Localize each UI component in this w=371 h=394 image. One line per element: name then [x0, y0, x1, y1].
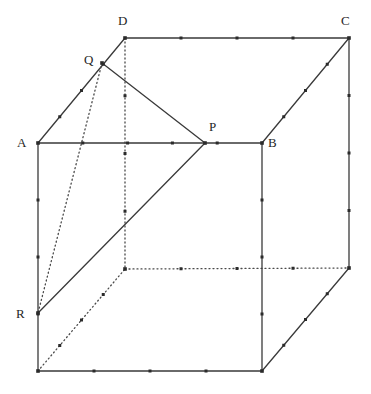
edge-tick-mark: [149, 370, 152, 373]
vertex-dot-d: [123, 36, 127, 40]
edge-tick-mark: [282, 115, 285, 118]
edge-tick-mark: [124, 210, 127, 213]
edge-tick-mark: [171, 142, 174, 145]
edge-tick-mark: [102, 293, 105, 296]
edge-tick-mark: [58, 344, 61, 347]
vertex-label-d: D: [118, 14, 127, 27]
edge-tick-mark: [348, 94, 351, 97]
cube-diagram-svg: [0, 0, 371, 394]
edge-tick-mark: [205, 370, 208, 373]
edge-tick-mark: [216, 142, 219, 145]
vertex-dot-h: [123, 267, 127, 271]
segment-QP: [102, 63, 205, 143]
vertex-dot-p: [203, 141, 207, 145]
edge-tick-mark: [37, 199, 40, 202]
vertex-dot-r: [36, 311, 40, 315]
solid-edges-group: [38, 38, 349, 371]
edge-tick-mark: [292, 37, 295, 40]
edge-tick-mark: [236, 37, 239, 40]
edge-tick-mark: [236, 267, 239, 270]
edge-tick-mark: [124, 152, 127, 155]
construction-solid-group: [38, 63, 205, 313]
edge-tick-mark: [80, 89, 83, 92]
edge-tick-mark: [93, 370, 96, 373]
edge-tick-mark: [326, 63, 329, 66]
edge-tick-mark: [282, 344, 285, 347]
vertex-label-p: P: [209, 120, 216, 133]
edge-tick-mark: [58, 115, 61, 118]
vertex-dot-a: [36, 141, 40, 145]
construction-hidden-group: [38, 63, 102, 313]
vertex-label-c: C: [341, 14, 350, 27]
edge-tick-mark: [261, 256, 264, 259]
vertex-label-b: B: [268, 136, 277, 149]
vertex-dot-b: [260, 141, 264, 145]
vertex-label-a: A: [17, 136, 26, 149]
edge-tick-mark: [180, 267, 183, 270]
segment-QR: [38, 63, 102, 313]
geometry-figure: A B C D P Q R: [0, 0, 371, 394]
edge-tick-mark: [81, 142, 84, 145]
edge-tick-mark: [348, 209, 351, 212]
edge-tick-mark: [180, 37, 183, 40]
edge-tick-mark: [124, 94, 127, 97]
vertex-label-r: R: [16, 307, 25, 320]
edge-tick-mark: [304, 89, 307, 92]
edge-tick-mark: [348, 152, 351, 155]
edge-tick-mark: [126, 142, 129, 145]
vertex-dot-q: [100, 61, 104, 65]
vertex-dot-c: [347, 36, 351, 40]
edge-tick-mark: [37, 256, 40, 259]
edge-tick-mark: [80, 319, 83, 322]
edge-tick-mark: [304, 318, 307, 321]
vertex-dot-f: [260, 369, 264, 373]
vertex-dot-g: [347, 266, 351, 270]
segment-PR: [38, 143, 205, 313]
edge-tick-mark: [261, 313, 264, 316]
hidden-edges-group: [38, 38, 349, 371]
vertex-label-q: Q: [84, 53, 93, 66]
edge-tick-mark: [261, 199, 264, 202]
edge-tick-mark: [326, 292, 329, 295]
vertex-dot-e: [36, 369, 40, 373]
edge-tick-mark: [292, 267, 295, 270]
